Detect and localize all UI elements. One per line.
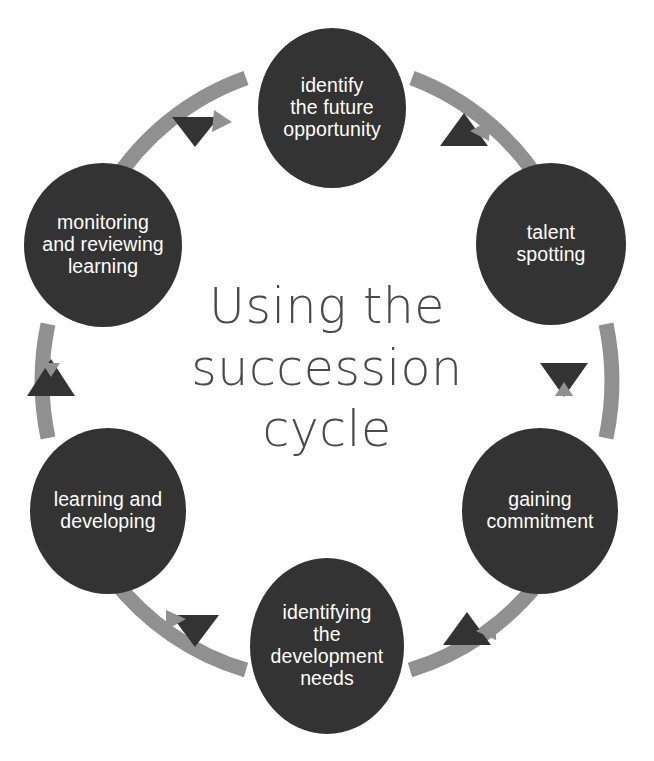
node-line: the [271, 624, 384, 646]
node-line: learning [42, 256, 164, 278]
node-line: needs [271, 668, 384, 690]
node-learning-and-developing[interactable]: learning and developing [30, 428, 186, 594]
node-line: commitment [486, 511, 593, 533]
node-line: the future [283, 97, 381, 119]
node-monitoring-and-reviewing-learning[interactable]: monitoring and reviewing learning [24, 163, 182, 327]
node-line: talent [516, 222, 585, 244]
title-line-2: succession [157, 338, 497, 400]
node-label: gaining commitment [478, 489, 601, 533]
node-line: opportunity [283, 119, 381, 141]
title-line-1: Using the [157, 276, 497, 338]
node-line: and reviewing [42, 234, 164, 256]
node-line: development [271, 646, 384, 668]
node-line: monitoring [42, 212, 164, 234]
node-line: learning and [54, 489, 163, 511]
node-label: identify the future opportunity [275, 75, 389, 140]
node-label: identifying the development needs [263, 602, 392, 689]
node-line: spotting [516, 244, 585, 266]
node-identify-the-future-opportunity[interactable]: identify the future opportunity [258, 28, 406, 188]
node-line: identifying [271, 602, 384, 624]
arrow-top-left-head [172, 117, 219, 147]
node-label: monitoring and reviewing learning [34, 212, 172, 277]
node-label: learning and developing [46, 489, 171, 533]
title-line-3: cycle [157, 399, 497, 461]
node-line: identify [283, 75, 381, 97]
node-talent-spotting[interactable]: talent spotting [476, 163, 626, 325]
node-line: developing [54, 511, 163, 533]
succession-cycle-diagram: Using the succession cycle identify the … [0, 0, 654, 761]
ring-segment-right [606, 324, 612, 438]
node-gaining-commitment[interactable]: gaining commitment [462, 428, 618, 594]
ribbon-tail-top-left [212, 110, 232, 132]
node-line: gaining [486, 489, 593, 511]
diagram-title: Using the succession cycle [157, 276, 497, 461]
node-label: talent spotting [508, 222, 593, 266]
node-identifying-the-development-needs[interactable]: identifying the development needs [250, 558, 404, 734]
